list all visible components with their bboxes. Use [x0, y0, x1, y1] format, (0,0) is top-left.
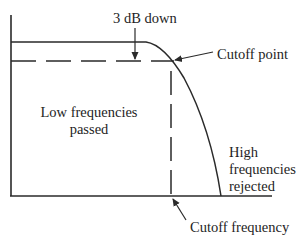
- low-frequencies-label: Low frequencies: [40, 104, 137, 120]
- rejected-label: rejected: [229, 178, 276, 194]
- high-label: High: [229, 144, 259, 160]
- filter-response-diagram: 3 dB down Cutoff point Low frequencies p…: [0, 0, 303, 241]
- three-db-label: 3 dB down: [113, 10, 177, 26]
- cutoff-frequency-arrow: [173, 199, 186, 220]
- frequencies-label: frequencies: [229, 161, 296, 177]
- cutoff-point-arrow: [175, 52, 213, 60]
- diagram-svg: 3 dB down Cutoff point Low frequencies p…: [0, 0, 303, 241]
- cutoff-frequency-label: Cutoff frequency: [190, 219, 290, 235]
- passed-label: passed: [70, 121, 109, 137]
- cutoff-point-label: Cutoff point: [217, 46, 288, 62]
